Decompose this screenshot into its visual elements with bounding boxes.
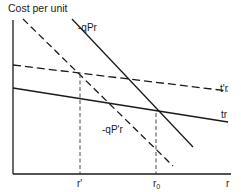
tick-label-r-zero: r0 <box>153 179 160 189</box>
tick-label-r-prime: r' <box>77 179 82 189</box>
curve-tprime-r <box>13 65 228 91</box>
label-tprime-r: t'r <box>220 84 228 94</box>
curve-neg-qPr <box>72 19 193 147</box>
y-axis-title: Cost per unit <box>8 3 68 14</box>
label-neg-qPprime-r: -qP'r <box>102 125 123 135</box>
x-axis-label: r <box>226 179 229 189</box>
curve-tr <box>13 88 228 122</box>
diagram-canvas <box>0 0 241 192</box>
label-neg-qPr: -qPr <box>78 23 97 33</box>
cost-per-unit-diagram: Cost per unit -qPr t'r tr -qP'r r' r0 r <box>0 0 241 192</box>
label-tr: tr <box>221 110 227 120</box>
tick-label-r-zero-sub: 0 <box>156 183 160 190</box>
